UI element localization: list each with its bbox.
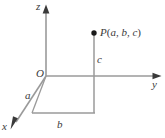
point-P-letter: P xyxy=(100,26,107,38)
z-axis-arrowhead xyxy=(43,5,50,14)
x-axis-label: x xyxy=(2,121,7,132)
y-axis xyxy=(46,73,162,80)
dimension-label-c: c xyxy=(97,54,102,65)
dimension-label-a: a xyxy=(25,90,31,101)
origin-label: O xyxy=(36,68,44,79)
z-axis-label: z xyxy=(36,1,40,12)
figure-canvas xyxy=(0,0,165,138)
point-P-label: P(a, b, c) xyxy=(100,27,141,38)
point-P-close-paren: ) xyxy=(137,26,141,38)
y-axis-label: y xyxy=(152,79,157,90)
z-axis xyxy=(43,5,50,77)
x-axis-arrowhead xyxy=(11,116,18,129)
dimension-label-b: b xyxy=(57,119,63,130)
coordinate-system-figure: z y x O a b c P(a, b, c) xyxy=(0,0,165,138)
point-P-marker xyxy=(91,30,96,35)
x-axis xyxy=(11,76,47,130)
